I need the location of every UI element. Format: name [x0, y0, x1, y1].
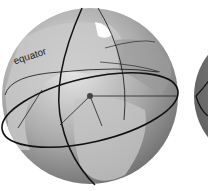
main-globe	[0, 8, 185, 185]
partial-globe-right	[194, 28, 208, 164]
globe-diagram	[0, 0, 208, 191]
center-point	[87, 93, 93, 99]
